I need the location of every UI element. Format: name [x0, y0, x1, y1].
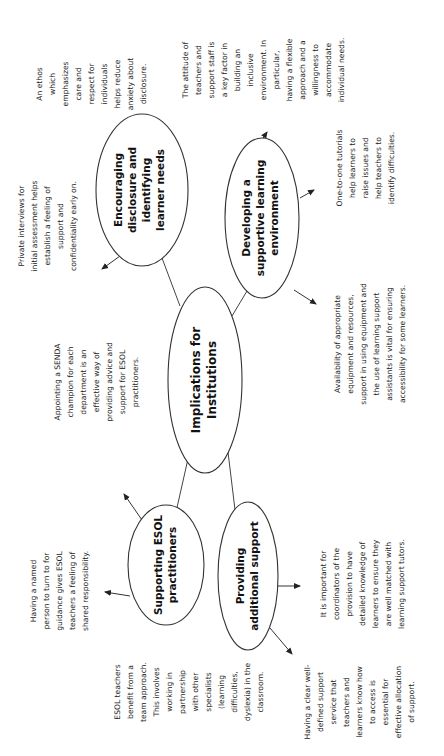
note-line: having a flexible: [285, 38, 294, 101]
note-line: The attitude of: [181, 42, 190, 100]
arrow-to-clear-service: [270, 628, 292, 654]
node-developing-line-2: supportive learning: [254, 160, 266, 276]
node-providing: Providing additional support: [218, 502, 278, 650]
note-named-person: Having a named person to turn to for gui…: [29, 550, 90, 631]
arrow-to-named-person: [105, 592, 130, 596]
node-supporting-line-1: Supporting ESOL: [152, 515, 164, 615]
note-line: individuals: [100, 64, 109, 105]
note-line: support staff is: [207, 42, 216, 99]
node-encouraging: Encouraging disclosure and identifying l…: [96, 114, 188, 266]
note-line: team approach.: [139, 662, 148, 722]
note-line: This involves: [152, 667, 161, 717]
node-encouraging-line-3: identifying: [140, 158, 152, 222]
note-line: One-to-one tutorials: [335, 130, 344, 207]
node-developing: Developing a supportive learning environ…: [225, 138, 299, 298]
note-line: classroom.: [256, 672, 265, 713]
connector-center-providing: [228, 452, 236, 518]
note-line: the use of learning support: [372, 292, 381, 395]
note-line: help teachers to: [374, 137, 383, 199]
note-line: detailed knowledge of: [358, 542, 367, 626]
node-providing-line-2: additional support: [248, 521, 260, 631]
note-line: anxiety about: [126, 58, 135, 111]
note-line: disclosure.: [139, 64, 148, 105]
note-line: effective way of: [92, 351, 101, 412]
note-line: dyslexia) in the: [243, 663, 252, 722]
note-line: accessibility for some learners.: [398, 285, 407, 403]
note-line: equipment and resources,: [346, 294, 355, 393]
note-line: Availability of appropriate: [333, 295, 342, 393]
note-line: Private interviews for: [17, 185, 26, 267]
note-line: raise issues and: [361, 137, 370, 198]
center-node: Implications for Institutions: [168, 287, 242, 473]
note-ethos: An ethos which emphasizes care and respe…: [35, 58, 148, 111]
note-line: learners know how: [355, 666, 364, 738]
note-line: care and: [74, 67, 83, 100]
note-line: It is important for: [319, 550, 328, 617]
connector-center-encouraging: [162, 258, 180, 306]
note-line: inclusive: [246, 53, 255, 87]
note-line: specialists: [204, 672, 213, 712]
node-supporting: Supporting ESOL practitioners: [128, 505, 204, 625]
note-coordinators: It is important for coordinators of the …: [319, 539, 406, 629]
note-line: support for ESOL: [118, 349, 127, 414]
node-encouraging-line-4: learner needs: [154, 149, 166, 231]
note-private-interviews: Private interviews for initial assessmen…: [17, 180, 78, 271]
note-line: particular,: [272, 51, 281, 90]
note-line: helps reduce: [113, 59, 122, 108]
note-line: of support.: [407, 681, 416, 722]
note-line: providing advice and: [105, 342, 114, 422]
node-encouraging-line-2: disclosure and: [126, 147, 138, 233]
note-line: are well matched with: [384, 542, 393, 626]
note-line: support and: [56, 203, 65, 249]
node-developing-line-1: Developing a: [240, 179, 252, 256]
note-line: with other: [191, 672, 200, 712]
arrow-to-equipment: [294, 290, 316, 304]
node-supporting-line-2: practitioners: [166, 527, 178, 603]
note-line: effective allocation: [394, 666, 403, 738]
note-line: essential for: [381, 678, 390, 726]
note-line: learners to ensure they: [371, 539, 380, 628]
note-line: benefit from a: [126, 665, 135, 719]
note-line: environment. In: [259, 40, 268, 100]
center-label-line-1: Implications for: [189, 327, 203, 433]
note-senda: Appointing a SENDA champion for each dep…: [53, 342, 140, 422]
note-line: to access is: [368, 680, 377, 724]
note-line: willingness to: [311, 44, 320, 96]
note-line: teachers and: [194, 45, 203, 95]
note-line: Appointing a SENDA: [53, 343, 62, 421]
note-line: teachers a feeling of: [68, 552, 77, 630]
note-line: difficulties,: [230, 671, 239, 713]
center-label-line-2: Institutions: [205, 341, 219, 419]
note-line: Having a named: [29, 560, 38, 623]
note-line: learning support tutors.: [397, 539, 406, 629]
note-line: respect for: [87, 63, 96, 105]
note-line: emphasizes: [61, 61, 70, 106]
diagram-canvas: Implications for Institutions Encouragin…: [0, 0, 444, 756]
note-line: defined support: [316, 672, 325, 732]
note-line: accommodate: [324, 43, 333, 98]
note-line: help learners to: [348, 138, 357, 198]
note-line: building an: [233, 49, 242, 91]
note-line: identify difficulties.: [387, 132, 396, 204]
note-line: initial assessment helps: [30, 180, 39, 271]
note-line: (learning: [217, 675, 226, 709]
note-line: partnership: [178, 670, 187, 714]
note-line: An ethos: [35, 67, 44, 101]
arrow-to-tutorials: [300, 190, 314, 198]
note-line: individual needs.: [337, 38, 346, 103]
note-line: confidentiality early on.: [69, 181, 78, 271]
note-line: working in: [165, 672, 174, 712]
note-line: service that: [329, 679, 338, 724]
note-line: assistants is vital for ensuring: [385, 287, 394, 401]
note-line: establish a feeling of: [43, 186, 52, 265]
note-clear-service: Having a clear well- defined support ser…: [303, 664, 416, 739]
note-line: practitioners.: [131, 357, 140, 408]
note-equipment: Availability of appropriate equipment an…: [333, 283, 407, 405]
note-line: a key factor in: [220, 43, 229, 98]
note-team-approach: ESOL teachers benefit from a team approa…: [113, 662, 265, 722]
mind-map-diagram: Implications for Institutions Encouragin…: [0, 0, 444, 756]
note-line: shared responsibility.: [81, 551, 90, 631]
arrow-to-senda: [124, 494, 142, 520]
node-developing-line-3: environment: [268, 180, 280, 255]
note-line: support in using equipment and: [359, 283, 368, 405]
